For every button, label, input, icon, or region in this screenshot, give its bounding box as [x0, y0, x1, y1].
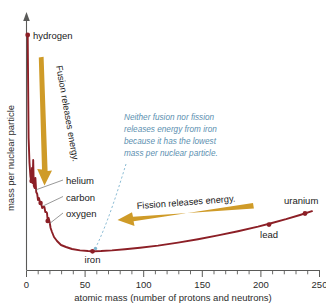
label-carbon: carbon	[66, 192, 95, 203]
iron-note-line-2: releases energy from iron	[124, 125, 217, 134]
xtick-label-200: 200	[253, 279, 269, 290]
xtick-label-150: 150	[194, 279, 210, 290]
point-marker-hydrogen	[25, 33, 30, 38]
xtick-label-250: 250	[312, 279, 326, 290]
label-lead: lead	[260, 229, 278, 240]
point-marker-oxygen	[45, 219, 49, 223]
point-marker-iron	[90, 249, 95, 254]
x-axis-title: atomic mass (number of protons and neutr…	[74, 292, 271, 303]
iron-note-line-4: mass per nuclear particle.	[124, 149, 218, 158]
label-uranium: uranium	[284, 195, 318, 206]
point-marker-helium	[29, 179, 33, 183]
label-oxygen: oxygen	[66, 208, 97, 219]
iron-note-leader	[97, 164, 127, 246]
xtick-label-0: 0	[24, 279, 29, 290]
xtick-label-100: 100	[136, 279, 152, 290]
x-axis-minor-ticks	[38, 271, 308, 275]
point-marker-uranium	[303, 211, 308, 216]
label-hydrogen: hydrogen	[33, 30, 73, 41]
leader-line-carbon	[43, 197, 63, 207]
point-marker-lead	[267, 222, 272, 227]
iron-note-line-1: Neither fusion nor fission	[124, 113, 215, 122]
label-iron: iron	[85, 254, 101, 265]
label-helium: helium	[66, 175, 94, 186]
iron-note-leader-endpoint	[94, 247, 97, 250]
xtick-label-50: 50	[80, 279, 91, 290]
x-axis-major-ticks	[27, 271, 320, 278]
fusion-arrow-label: Fusion releases energy.	[54, 65, 81, 163]
point-marker-carbon	[38, 201, 42, 205]
iron-note-line-3: because it has the lowest	[124, 137, 217, 146]
chart-figure: 0 50 100 150 200 250 atomic mass (number…	[0, 0, 326, 305]
leader-line-oxygen	[49, 213, 63, 224]
fusion-arrow	[37, 57, 52, 186]
leader-line-helium	[36, 180, 64, 190]
y-axis-title: mass per nuclear particle	[5, 105, 16, 211]
